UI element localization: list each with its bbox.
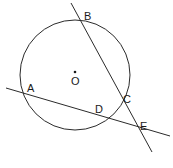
point-label-d: D: [95, 104, 103, 115]
point-label-o: O: [71, 76, 80, 87]
geometry-canvas: [0, 0, 173, 168]
point-label-e: E: [140, 121, 147, 132]
center-point-dot: [74, 71, 77, 74]
point-label-c: C: [123, 94, 131, 105]
point-label-b: B: [84, 11, 91, 22]
geometry-diagram: O A B C D E: [0, 0, 173, 168]
point-label-a: A: [27, 83, 34, 94]
